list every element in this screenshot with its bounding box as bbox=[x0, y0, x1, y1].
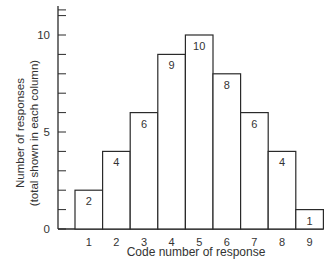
y-tick-label: 0 bbox=[44, 223, 50, 235]
bar-value-label: 8 bbox=[224, 79, 230, 91]
bar-5 bbox=[185, 35, 213, 229]
y-axis-label: Number of responses (total shown in each… bbox=[4, 48, 50, 218]
bar-value-label: 10 bbox=[193, 40, 205, 52]
bar-4 bbox=[158, 54, 186, 229]
bar-value-label: 4 bbox=[279, 156, 285, 168]
bar-6 bbox=[213, 74, 241, 229]
x-axis-label: Code number of response bbox=[0, 245, 332, 259]
bar-value-label: 6 bbox=[141, 118, 147, 130]
bar-value-label: 9 bbox=[169, 59, 175, 71]
y-axis-subtitle: (total shown in each column) bbox=[27, 38, 41, 228]
bar-value-label: 2 bbox=[86, 195, 92, 207]
bar-value-label: 1 bbox=[307, 215, 313, 227]
bar-value-label: 4 bbox=[113, 156, 119, 168]
histogram-chart: 05102142639410586674819 Number of respon… bbox=[0, 0, 332, 271]
bar-7 bbox=[241, 113, 269, 229]
bar-value-label: 6 bbox=[251, 118, 257, 130]
y-axis-title: Number of responses bbox=[13, 38, 27, 228]
bar-3 bbox=[130, 113, 158, 229]
